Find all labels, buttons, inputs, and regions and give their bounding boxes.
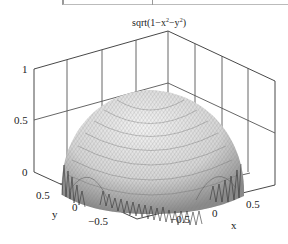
hemisphere-surface: [62, 90, 244, 225]
z-tick-0: 0: [22, 167, 28, 178]
y-tick-neg0.5: −0.5: [88, 216, 108, 227]
x-tick-0.5: 0.5: [246, 199, 260, 210]
x-axis-label: x: [231, 220, 237, 231]
y-tick-0: 0: [72, 202, 78, 213]
y-axis-label: y: [52, 209, 58, 220]
x-tick-0: 0: [212, 208, 218, 219]
y-tick-0.5: 0.5: [36, 190, 50, 201]
z-tick-1: 1: [22, 64, 28, 75]
x-tick-neg0.5: −0.5: [170, 214, 190, 225]
plot-area: [0, 0, 288, 244]
z-tick-0.5: 0.5: [14, 115, 28, 126]
